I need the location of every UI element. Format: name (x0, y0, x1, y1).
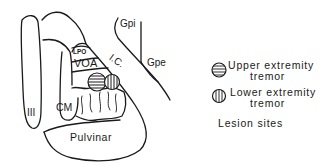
label-voa: VOA (74, 57, 98, 69)
vim-squiggle (72, 87, 126, 120)
label-gpe: Gpe (147, 57, 166, 68)
legend-vertical-stripe-icon (213, 88, 226, 104)
label-cm: CM (56, 101, 72, 113)
legend-upper-line2: tremor (228, 71, 314, 82)
label-lpo: LPO (73, 48, 86, 55)
legend-horizontal-stripe-icon (210, 63, 228, 77)
label-gpi: Gpi (120, 18, 136, 29)
label-pulvinar: Pulvinar (70, 131, 112, 143)
legend-lower-extremity: Lower extremity tremor (230, 87, 316, 109)
label-iii: III (27, 107, 35, 118)
legend-lower-line2: tremor (230, 98, 316, 109)
thalamus-diagram: III LPO VOA I.C. CM Pulvinar Gpi Gpe (0, 0, 329, 167)
legend-upper-extremity: Upper extremity tremor (228, 60, 314, 82)
legend-caption: Lesion sites (218, 118, 283, 129)
label-ic: I.C. (107, 52, 126, 70)
